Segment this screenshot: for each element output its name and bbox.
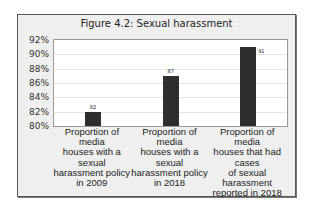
plot-area: 80%82%84%86%88%90%92%828791 — [53, 39, 288, 127]
bar — [240, 47, 256, 126]
x-category-label: Proportion of media houses that had case… — [207, 127, 287, 198]
data-label: 82 — [90, 104, 96, 110]
y-tick-label: 88% — [21, 64, 49, 74]
x-category-label: Proportion of media houses with a sexual… — [130, 127, 210, 188]
chart-title: Figure 4.2: Sexual harassment — [18, 18, 295, 29]
chart-frame: Figure 4.2: Sexual harassment 80%82%84%8… — [17, 14, 296, 197]
y-tick-label: 80% — [21, 121, 49, 131]
y-tick-label: 86% — [21, 78, 49, 88]
y-tick-label: 84% — [21, 92, 49, 102]
y-tick-label: 92% — [21, 35, 49, 45]
bar — [163, 76, 179, 126]
bar — [85, 112, 101, 126]
y-tick-label: 82% — [21, 107, 49, 117]
x-category-label: Proportion of media houses with a sexual… — [52, 127, 132, 188]
data-label: 87 — [168, 68, 174, 74]
data-label: 91 — [258, 48, 264, 54]
y-tick-label: 90% — [21, 49, 49, 59]
